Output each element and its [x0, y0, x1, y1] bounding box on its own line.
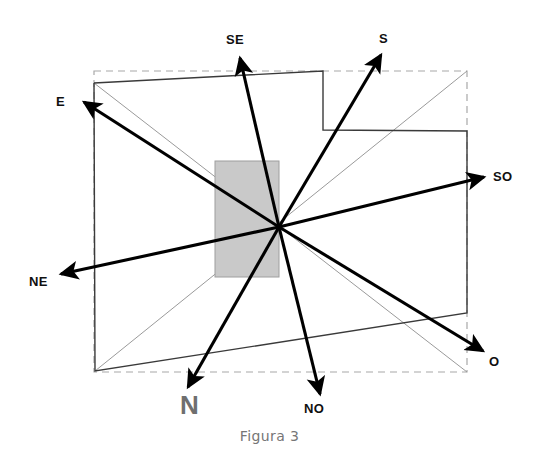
direction-label-ne: NE: [29, 274, 48, 289]
direction-label-o: O: [489, 354, 499, 369]
figure-caption: Figura 3: [0, 428, 539, 444]
direction-label-s: S: [379, 31, 388, 46]
direction-label-n: N: [180, 390, 199, 421]
shaded-room-rectangle: [215, 161, 279, 277]
arrow-line-NO: [279, 227, 320, 394]
direction-label-no: NO: [304, 401, 324, 416]
floor-plan-diagram: [0, 0, 539, 470]
direction-label-so: SO: [493, 169, 512, 184]
arrow-line-S: [279, 55, 381, 227]
arrow-line-O: [279, 227, 483, 351]
arrow-line-SO: [279, 177, 484, 227]
direction-label-e: E: [56, 94, 65, 109]
figure-3-container: SE S E SO NE O N NO Figura 3: [0, 0, 539, 470]
direction-label-se: SE: [226, 32, 244, 47]
